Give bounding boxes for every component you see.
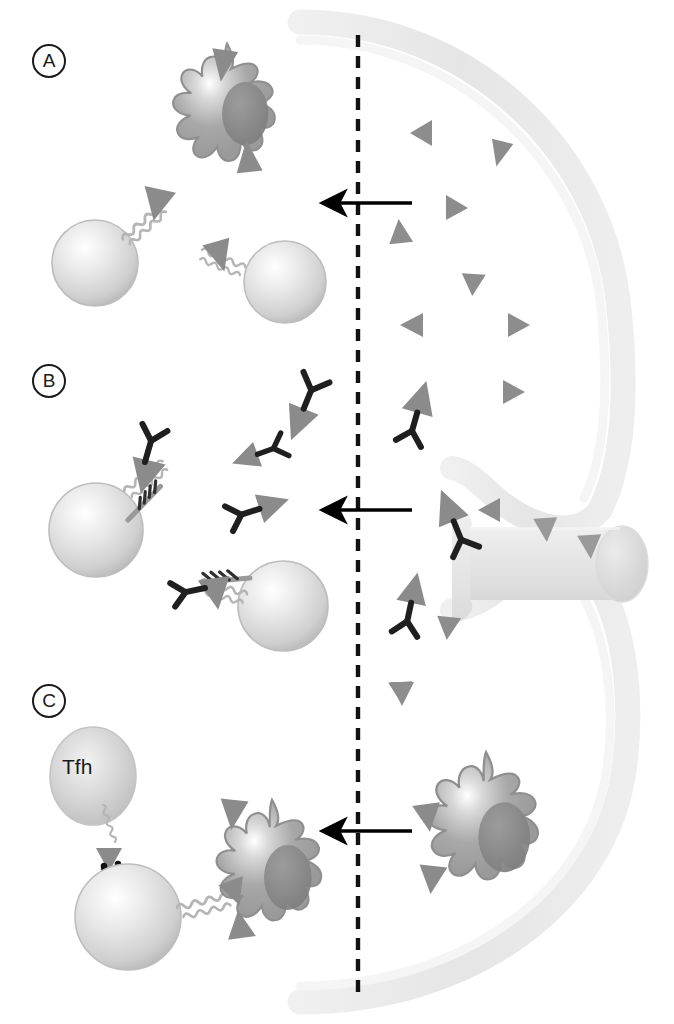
- cell-nucleus: [222, 82, 268, 145]
- bcr-receptor: [176, 892, 231, 920]
- antigen-triangle: [410, 120, 432, 146]
- b-cell: [49, 483, 143, 577]
- b-cell: [75, 864, 181, 970]
- immune-complex: [390, 569, 432, 637]
- dendritic-cell: [427, 752, 537, 879]
- figure-root: A B C Tfh: [0, 0, 674, 1024]
- cell-nucleus: [264, 845, 312, 910]
- antigen-triangle: [400, 313, 423, 337]
- antigen-triangle: [503, 380, 525, 404]
- panel-label-a-text: A: [43, 50, 56, 72]
- immune-complex: [276, 371, 331, 446]
- immune-complex: [393, 376, 442, 447]
- antigen-triangle: [446, 195, 468, 220]
- antigen-triangle: [387, 218, 413, 244]
- antigen-triangle: [402, 376, 442, 417]
- antigen-triangle: [508, 313, 530, 337]
- antigen-triangle: [460, 273, 485, 297]
- panel-label-a: A: [32, 44, 66, 78]
- immune-complex: [224, 485, 293, 533]
- antigen-triangle: [486, 139, 514, 170]
- panel-c-content: [50, 682, 538, 970]
- antigen-triangle: [218, 799, 249, 832]
- panel-label-c-text: C: [42, 690, 56, 712]
- antigen-triangle: [396, 569, 432, 606]
- diagram-canvas: [0, 0, 674, 1024]
- immune-complex: [228, 432, 290, 476]
- panel-label-c: C: [32, 684, 66, 718]
- b-cell: [244, 241, 326, 323]
- antigen-triangle: [435, 616, 461, 641]
- antigen-triangle: [390, 682, 414, 706]
- tfh-cell: [50, 727, 136, 825]
- antigen-triangle: [228, 442, 262, 476]
- panel-label-b-text: B: [43, 370, 56, 392]
- cell-nucleus: [478, 802, 530, 872]
- antigen-triangle: [417, 865, 448, 896]
- flow-arrows: [322, 203, 412, 831]
- antigen-triangle: [255, 485, 294, 523]
- panel-label-b: B: [32, 364, 66, 398]
- antigen-triangle: [276, 403, 318, 447]
- b-cell: [238, 561, 328, 651]
